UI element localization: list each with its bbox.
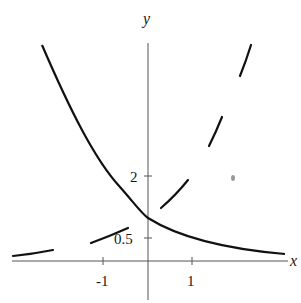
chart: -1 1 2 0.5 x y: [0, 0, 301, 303]
x-tick-label-1: 1: [187, 273, 195, 289]
x-axis-label: x: [289, 252, 297, 269]
dashed-curve: [13, 45, 251, 256]
y-tick-label-2: 2: [130, 169, 138, 185]
y-axis-label: y: [141, 10, 151, 28]
x-tick-label-minus1: -1: [96, 273, 109, 289]
solid-curve: [42, 45, 285, 254]
scan-artifact-dot: [231, 175, 235, 181]
